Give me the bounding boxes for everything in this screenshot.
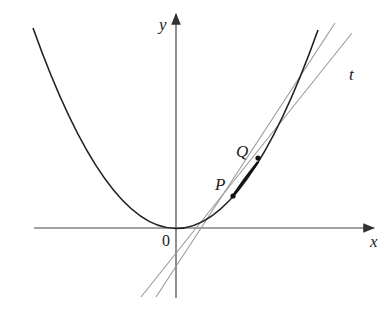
point-p <box>230 193 235 198</box>
y-axis-label: y <box>157 15 167 34</box>
tangent-label-t: t <box>349 65 355 84</box>
x-axis-label: x <box>369 232 378 251</box>
point-p-label: P <box>214 175 225 194</box>
origin-label: 0 <box>162 232 170 249</box>
tangent-line-t <box>141 33 352 297</box>
point-q-label: Q <box>236 142 248 161</box>
point-q <box>255 155 260 160</box>
parabola-tangent-diagram: y x 0 P Q t <box>0 0 389 326</box>
